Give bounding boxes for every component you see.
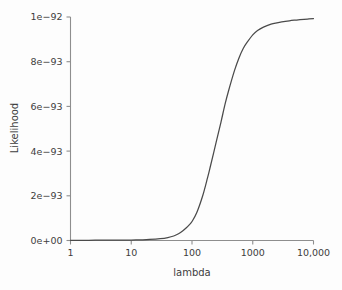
y-tick-label: 2e−93 [31, 190, 63, 201]
x-tick-label: 1 [67, 247, 73, 258]
y-tick-label: 4e−93 [31, 146, 63, 157]
y-tick-label: 1e−92 [31, 11, 63, 22]
x-tick-label: 1000 [241, 247, 265, 258]
y-axis-title: Likelihood [9, 103, 20, 153]
y-tick-label: 0e+00 [31, 235, 63, 246]
y-tick-label: 6e−93 [31, 101, 63, 112]
x-tick-label: 10 [125, 247, 137, 258]
x-axis-title: lambda [173, 267, 210, 278]
x-tick-label: 10,000 [297, 247, 330, 258]
y-tick-label: 8e−93 [31, 56, 63, 67]
likelihood-chart: 0e+002e−934e−936e−938e−931e−92 110100100… [0, 0, 342, 290]
chart-page: 0e+002e−934e−936e−938e−931e−92 110100100… [0, 0, 342, 290]
x-tick-label: 100 [183, 247, 201, 258]
